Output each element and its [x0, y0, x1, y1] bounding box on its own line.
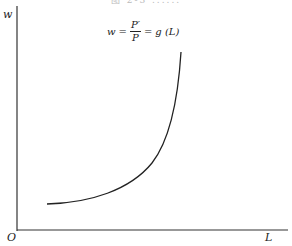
eq-fraction: P′ P [130, 20, 141, 43]
eq-denominator: P [132, 32, 139, 43]
y-axis-label: w [3, 8, 12, 21]
eq-rhs: g (L) [155, 26, 179, 37]
eq-lhs: w [107, 26, 116, 37]
curve-equation: w = P′ P = g (L) [107, 20, 179, 43]
eq-sign-2: = [144, 26, 152, 37]
eq-sign-1: = [119, 26, 127, 37]
x-axis-label: L [265, 231, 272, 244]
origin-label: O [7, 231, 16, 244]
eq-numerator: P′ [130, 20, 141, 32]
curve-w-g-L [47, 52, 181, 204]
